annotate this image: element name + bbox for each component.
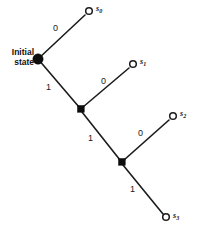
- leaf-node-s3: [163, 214, 170, 221]
- edge-label-branch1-to-branch2: 1: [88, 134, 93, 143]
- edge-label-branch1-to-s1: 0: [101, 77, 106, 86]
- initial-state-label-line1: Initial: [12, 47, 34, 57]
- tree-canvas: [0, 0, 199, 234]
- leaf-node-s2: [170, 113, 177, 120]
- edge-label-root-to-s0: 0: [53, 24, 58, 33]
- root-node-initial-state: [33, 54, 43, 64]
- initial-state-label-line2: state: [14, 57, 34, 67]
- edge-branch2-to-s3: [123, 165, 163, 214]
- leaf-label-s3: s3: [173, 212, 179, 220]
- branch-node-2: [119, 159, 126, 166]
- branch-node-1: [78, 106, 85, 113]
- edge-root-to-branch1: [38, 59, 79, 107]
- edge-branch1-to-s1: [83, 68, 129, 107]
- leaf-node-s1: [130, 61, 137, 68]
- leaf-node-s0: [86, 8, 93, 15]
- leaf-label-s2: s2: [180, 110, 186, 118]
- edge-label-branch2-to-s2: 0: [138, 129, 143, 138]
- edge-label-root-to-branch1: 1: [46, 83, 51, 92]
- edge-branch2-to-s2: [124, 120, 169, 160]
- leaf-label-s0: s0: [96, 5, 102, 13]
- edge-label-branch2-to-s3: 1: [130, 185, 135, 194]
- edge-root-to-s0: [38, 15, 85, 59]
- leaf-label-s1: s1: [140, 58, 146, 66]
- decision-tree-diagram: Initial state 0 1 0 1 0 1 s0 s1 s2 s3: [0, 0, 199, 234]
- initial-state-label: Initial state: [0, 47, 34, 67]
